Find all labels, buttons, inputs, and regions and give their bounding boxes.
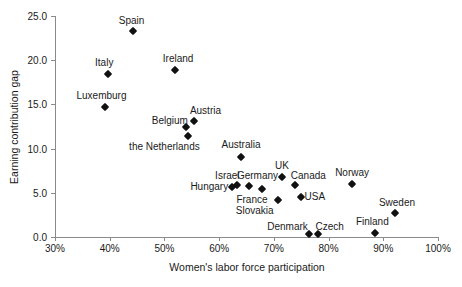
y-tick-mark [51, 104, 55, 105]
data-point-label: Norway [335, 166, 369, 177]
data-point-label: Australia [222, 139, 261, 150]
y-axis-title: Earning contribution gap [8, 70, 20, 184]
y-axis-line [55, 16, 56, 238]
data-point-marker [258, 185, 266, 193]
data-point-marker [278, 173, 286, 181]
x-tick-label: 70% [264, 243, 284, 254]
data-point-label: Ireland [163, 52, 194, 63]
y-tick-label: 0.0 [33, 232, 47, 243]
y-tick-mark [51, 237, 55, 238]
data-point-label: USA [305, 191, 326, 202]
data-point-marker [371, 228, 379, 236]
data-point-label: Germany [237, 170, 278, 181]
x-tick-label: 90% [373, 243, 393, 254]
x-tick-label: 40% [100, 243, 120, 254]
data-point-label: the Netherlands [129, 140, 200, 151]
x-axis-line [55, 237, 439, 238]
data-point-label: Luxemburg [76, 89, 126, 100]
y-tick-mark [51, 16, 55, 17]
data-point-marker [101, 103, 109, 111]
y-tick-label: 15.0 [28, 99, 47, 110]
x-tick-mark [219, 237, 220, 241]
y-tick-label: 10.0 [28, 143, 47, 154]
y-tick-label: 25.0 [28, 11, 47, 22]
data-point-marker [184, 132, 192, 140]
data-point-label: Austria [190, 104, 221, 115]
data-point-label: Slovakia [236, 204, 274, 215]
data-point-label: Sweden [379, 196, 415, 207]
y-tick-mark [51, 193, 55, 194]
data-point-label: Canada [291, 170, 326, 181]
data-point-label: Finland [356, 216, 389, 227]
scatter-chart: 30%40%50%60%70%80%90%100%0.05.010.015.02… [0, 0, 462, 287]
x-tick-mark [164, 237, 165, 241]
x-tick-mark [383, 237, 384, 241]
data-point-label: Spain [119, 14, 145, 25]
data-point-marker [245, 181, 253, 189]
x-tick-mark [329, 237, 330, 241]
data-point-label: Hungary [190, 180, 228, 191]
x-tick-label: 80% [319, 243, 339, 254]
data-point-label: France [236, 193, 267, 204]
x-tick-mark [274, 237, 275, 241]
x-tick-label: 60% [209, 243, 229, 254]
y-tick-label: 5.0 [33, 187, 47, 198]
data-point-marker [391, 209, 399, 217]
y-tick-mark [51, 149, 55, 150]
data-point-marker [190, 117, 198, 125]
data-point-marker [104, 70, 112, 78]
x-tick-label: 50% [154, 243, 174, 254]
data-point-label: Denmark [267, 220, 308, 231]
y-tick-label: 20.0 [28, 55, 47, 66]
data-point-marker [237, 152, 245, 160]
data-point-marker [128, 27, 136, 35]
data-point-marker [274, 196, 282, 204]
x-tick-mark [110, 237, 111, 241]
x-axis-title: Women's labor force participation [55, 261, 439, 273]
x-tick-mark [55, 237, 56, 241]
data-point-marker [171, 66, 179, 74]
data-point-marker [291, 181, 299, 189]
data-point-label: UK [275, 159, 289, 170]
x-tick-label: 30% [45, 243, 65, 254]
data-point-label: Belgium [152, 115, 188, 126]
x-tick-mark [438, 237, 439, 241]
data-point-label: Italy [95, 56, 113, 67]
y-tick-mark [51, 60, 55, 61]
data-point-marker [348, 180, 356, 188]
data-point-label: Czech [315, 220, 343, 231]
x-tick-label: 100% [425, 243, 451, 254]
